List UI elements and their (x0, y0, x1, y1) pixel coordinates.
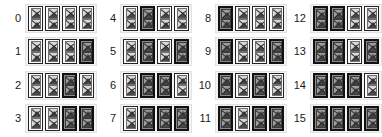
broken-image-icon (65, 8, 75, 19)
broken-image-icon (350, 85, 360, 95)
bit-row (25, 104, 97, 133)
broken-image-icon (367, 19, 377, 30)
broken-image-icon (160, 109, 170, 119)
broken-image-icon (316, 19, 326, 29)
binary-group: 7 (97, 102, 192, 135)
bit-cell-on[interactable] (313, 39, 328, 64)
bit-cell-off[interactable] (62, 39, 77, 64)
bit-cell-on[interactable] (252, 73, 267, 98)
broken-image-icon (272, 109, 282, 119)
bit-cell-off[interactable] (79, 73, 94, 98)
bit-cell-on[interactable] (364, 39, 379, 64)
bit-cell-off[interactable] (364, 73, 379, 98)
bit-cell-off[interactable] (252, 6, 267, 31)
bit-cell-off[interactable] (174, 6, 189, 31)
bit-cell-on[interactable] (157, 73, 172, 98)
bit-cell-on[interactable] (79, 106, 94, 131)
broken-image-icon (143, 19, 153, 29)
bit-cell-on[interactable] (313, 106, 328, 131)
broken-image-icon (177, 109, 187, 119)
bit-cell-on[interactable] (218, 6, 233, 31)
bit-cell-off[interactable] (235, 73, 250, 98)
bit-cell-off[interactable] (45, 106, 60, 131)
bit-cell-off[interactable] (269, 6, 284, 31)
bit-cell-on[interactable] (330, 106, 345, 131)
broken-image-icon (333, 52, 343, 62)
broken-image-icon (177, 8, 187, 19)
bit-cell-off[interactable] (45, 39, 60, 64)
bit-cell-on[interactable] (174, 106, 189, 131)
bit-cell-on[interactable] (218, 73, 233, 98)
broken-image-icon (221, 76, 231, 86)
bit-cell-off[interactable] (235, 106, 250, 131)
bit-cell-on[interactable] (140, 6, 155, 31)
bit-cell-on[interactable] (330, 6, 345, 31)
bit-cell-on[interactable] (140, 106, 155, 131)
broken-image-icon (48, 85, 58, 96)
bit-cell-on[interactable] (330, 39, 345, 64)
broken-image-icon (221, 42, 231, 52)
bit-cell-on[interactable] (313, 6, 328, 31)
broken-image-icon (272, 8, 282, 19)
bit-cell-off[interactable] (235, 6, 250, 31)
bit-cell-on[interactable] (218, 39, 233, 64)
bit-cell-off[interactable] (364, 6, 379, 31)
bit-cell-off[interactable] (28, 39, 43, 64)
bit-cell-off[interactable] (174, 73, 189, 98)
bit-row (120, 104, 192, 133)
bit-cell-off[interactable] (123, 106, 138, 131)
bit-cell-on[interactable] (79, 39, 94, 64)
binary-group: 5 (97, 35, 192, 68)
binary-group: 1 (2, 35, 97, 68)
broken-image-icon (31, 85, 41, 96)
bit-cell-on[interactable] (140, 39, 155, 64)
broken-image-icon (255, 8, 265, 19)
bit-cell-on[interactable] (62, 106, 77, 131)
group-label: 5 (97, 46, 120, 57)
broken-image-icon (126, 118, 136, 129)
broken-image-icon (221, 109, 231, 119)
bit-cell-on[interactable] (347, 106, 362, 131)
bit-cell-on[interactable] (347, 73, 362, 98)
bit-cell-on[interactable] (218, 106, 233, 131)
bit-cell-off[interactable] (45, 6, 60, 31)
bit-cell-off[interactable] (347, 6, 362, 31)
bit-cell-off[interactable] (269, 73, 284, 98)
bit-cell-off[interactable] (45, 73, 60, 98)
bit-cell-off[interactable] (347, 39, 362, 64)
bit-cell-on[interactable] (252, 106, 267, 131)
bit-cell-off[interactable] (123, 73, 138, 98)
broken-image-icon (367, 85, 377, 96)
broken-image-icon (221, 85, 231, 95)
bit-cell-off[interactable] (123, 39, 138, 64)
broken-image-icon (160, 8, 170, 19)
broken-image-icon (177, 75, 187, 86)
bit-cell-off[interactable] (28, 73, 43, 98)
bit-cell-off[interactable] (157, 6, 172, 31)
bit-cell-on[interactable] (174, 39, 189, 64)
bit-cell-off[interactable] (79, 6, 94, 31)
broken-image-icon (126, 108, 136, 119)
broken-image-icon (65, 52, 75, 63)
broken-image-icon (48, 52, 58, 63)
broken-image-icon (143, 118, 153, 128)
bit-cell-off[interactable] (123, 6, 138, 31)
broken-image-icon (238, 41, 248, 52)
bit-cell-off[interactable] (28, 106, 43, 131)
bit-cell-off[interactable] (235, 39, 250, 64)
bit-cell-on[interactable] (269, 106, 284, 131)
bit-cell-on[interactable] (313, 73, 328, 98)
bit-cell-on[interactable] (140, 73, 155, 98)
broken-image-icon (316, 76, 326, 86)
bit-cell-on[interactable] (364, 106, 379, 131)
bit-cell-on[interactable] (330, 73, 345, 98)
bit-cell-on[interactable] (62, 73, 77, 98)
bit-cell-off[interactable] (252, 39, 267, 64)
bit-cell-on[interactable] (269, 39, 284, 64)
bit-cell-off[interactable] (28, 6, 43, 31)
bit-cell-off[interactable] (157, 39, 172, 64)
broken-image-icon (48, 19, 58, 30)
bit-cell-off[interactable] (62, 6, 77, 31)
bit-row (25, 37, 97, 66)
bit-cell-on[interactable] (157, 106, 172, 131)
